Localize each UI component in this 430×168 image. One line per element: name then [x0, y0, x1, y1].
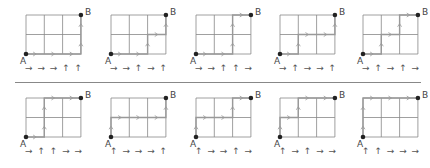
path-panel: AB→ → ↑ → ↑	[93, 0, 178, 80]
point-b	[333, 96, 338, 101]
move-sequence: ↑ ↑ → → →	[362, 146, 420, 156]
path-panel: AB→ → ↑ ↑ →	[178, 0, 263, 80]
route-path	[111, 98, 166, 137]
point-b	[416, 13, 421, 18]
label-b: B	[85, 90, 91, 100]
point-b	[164, 13, 169, 18]
label-b: B	[422, 7, 428, 17]
path-panel: AB↑ → ↑ → →	[262, 83, 347, 163]
path-panel: AB→ → → ↑ ↑	[8, 0, 93, 80]
path-panel: AB→ ↑ → ↑ →	[345, 0, 430, 80]
label-b: B	[422, 90, 428, 100]
path-panel: AB→ ↑ ↑ → →	[8, 83, 93, 163]
move-sequence: → ↑ → ↑ →	[362, 63, 420, 73]
point-b	[79, 13, 84, 18]
label-b: B	[170, 90, 176, 100]
move-sequence: → → ↑ ↑ →	[195, 63, 253, 73]
label-b: B	[170, 7, 176, 17]
move-sequence: ↑ → ↑ → →	[279, 146, 337, 156]
move-sequence: → → ↑ → ↑	[110, 63, 168, 73]
path-panel: AB→ ↑ → → ↑	[262, 0, 347, 80]
move-sequence: → → → ↑ ↑	[25, 63, 83, 73]
move-sequence: ↑ → → → ↑	[110, 146, 168, 156]
path-panel: AB↑ → → → ↑	[93, 83, 178, 163]
move-sequence: → ↑ → → ↑	[279, 63, 337, 73]
point-b	[416, 96, 421, 101]
point-b	[249, 13, 254, 18]
label-b: B	[85, 7, 91, 17]
move-sequence: ↑ → → ↑ →	[195, 146, 253, 156]
label-b: B	[255, 90, 261, 100]
row-divider	[15, 82, 421, 83]
path-panel: AB↑ → → ↑ →	[178, 83, 263, 163]
point-b	[164, 96, 169, 101]
label-b: B	[255, 7, 261, 17]
path-panel: AB↑ ↑ → → →	[345, 83, 430, 163]
point-b	[79, 96, 84, 101]
move-sequence: → ↑ ↑ → →	[25, 146, 83, 156]
point-b	[249, 96, 254, 101]
point-b	[333, 13, 338, 18]
